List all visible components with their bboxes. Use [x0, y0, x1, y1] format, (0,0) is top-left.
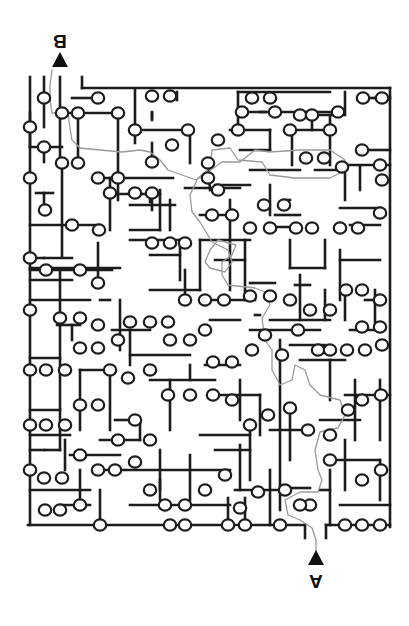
maze-node — [144, 434, 156, 445]
maze-node — [92, 319, 104, 330]
maze-node — [166, 139, 178, 150]
maze-node — [59, 364, 71, 375]
maze-node — [206, 209, 218, 220]
maze-node — [39, 204, 51, 215]
maze-node — [264, 290, 276, 301]
maze-node — [39, 504, 51, 515]
maze-diagram: A B — [0, 0, 409, 626]
maze-node — [129, 187, 141, 198]
maze-node — [284, 294, 296, 305]
maze-node — [179, 237, 191, 248]
maze-node — [376, 92, 388, 103]
maze-node — [300, 152, 312, 163]
maze-node — [54, 504, 66, 515]
maze-node — [164, 334, 176, 345]
maze-node — [207, 356, 219, 367]
maze-node — [218, 294, 230, 305]
maze-node — [294, 499, 306, 510]
maze-node — [146, 237, 158, 248]
maze-node — [112, 334, 124, 345]
maze-node — [284, 124, 296, 135]
maze-node — [324, 304, 336, 315]
maze-node — [38, 92, 50, 103]
maze-node — [162, 316, 174, 327]
maze-node — [306, 222, 318, 233]
maze-node — [284, 402, 296, 413]
maze-node — [258, 199, 270, 210]
maze-node — [92, 172, 104, 183]
maze-node — [352, 222, 364, 233]
maze-node — [38, 472, 50, 483]
maze-node — [74, 449, 86, 460]
maze-node — [226, 209, 238, 220]
maze-node — [112, 107, 124, 118]
maze-node — [164, 90, 176, 101]
maze-node — [144, 316, 156, 327]
maze-node — [146, 187, 158, 198]
maze-node — [306, 109, 318, 120]
maze-node — [324, 124, 336, 135]
maze-node — [72, 157, 84, 168]
maze-node — [324, 344, 336, 355]
maze-node — [374, 321, 386, 332]
maze-node — [144, 364, 156, 375]
maze-node — [356, 284, 368, 295]
maze-node — [294, 109, 306, 120]
start-arrow-icon — [308, 550, 324, 565]
maze-node — [252, 486, 264, 497]
maze-node — [376, 174, 388, 185]
maze-node — [374, 294, 386, 305]
maze-node — [276, 349, 288, 360]
maze-node — [38, 141, 50, 152]
start-label: A — [309, 571, 323, 592]
maze-node — [24, 304, 36, 315]
maze-node — [24, 419, 36, 430]
maze-node — [324, 454, 336, 465]
maze-node — [292, 324, 304, 335]
maze-node — [40, 264, 52, 275]
maze-node — [129, 456, 141, 467]
maze-node — [357, 92, 369, 103]
maze-node — [74, 312, 86, 323]
maze-nodes — [24, 90, 388, 530]
maze-node — [72, 107, 84, 118]
maze-node — [207, 389, 219, 400]
maze-node — [339, 519, 351, 530]
maze-node — [246, 344, 258, 355]
maze-node — [129, 124, 141, 135]
maze-node — [112, 172, 124, 183]
maze-node — [212, 134, 224, 145]
maze-node — [374, 159, 386, 170]
maze-node — [244, 290, 256, 301]
maze-node — [93, 224, 105, 235]
maze-node — [129, 414, 141, 425]
maze-node — [356, 394, 368, 405]
maze-node — [232, 124, 244, 135]
maze-node — [54, 312, 66, 323]
maze-node — [356, 519, 368, 530]
maze-node — [179, 294, 191, 305]
maze-node — [244, 419, 256, 430]
maze-node — [159, 499, 171, 510]
maze-node — [219, 469, 231, 480]
maze-node — [74, 342, 86, 353]
maze-node — [239, 519, 251, 530]
maze-node — [264, 222, 276, 233]
maze-node — [92, 464, 104, 475]
maze-node — [340, 284, 352, 295]
maze-node — [269, 106, 281, 117]
maze-node — [40, 419, 52, 430]
maze-node — [162, 389, 174, 400]
maze-node — [279, 484, 291, 495]
maze-node — [40, 364, 52, 375]
maze-node — [104, 364, 116, 375]
maze-node — [112, 434, 124, 445]
maze-node — [109, 464, 121, 475]
maze-node — [356, 144, 368, 155]
maze-node — [262, 409, 274, 420]
maze-node — [356, 321, 368, 332]
maze-node — [324, 429, 336, 440]
maze-node — [92, 399, 104, 410]
maze-node — [24, 121, 36, 132]
maze-node — [304, 304, 316, 315]
